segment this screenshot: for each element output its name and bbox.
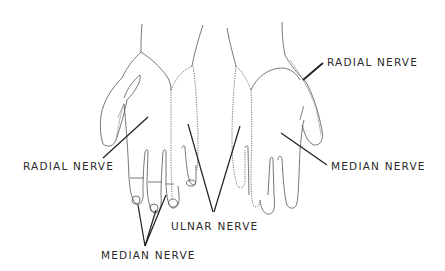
label-ulnar-nerve: ULNAR NERVE [171, 221, 258, 232]
pointer-ulnar-right [214, 126, 240, 212]
pointer-ulnar-left [188, 124, 213, 212]
pointer-median-right [281, 133, 327, 165]
label-radial-nerve-left: RADIAL NERVE [23, 161, 114, 172]
pointer-radial-right [303, 63, 323, 80]
label-radial-nerve-right: RADIAL NERVE [327, 57, 418, 68]
pointer-median-bottom-1 [138, 205, 145, 246]
right-hand [227, 22, 323, 214]
label-median-nerve-bottom: MEDIAN NERVE [101, 250, 196, 261]
pointer-median-bottom-3 [145, 195, 166, 246]
left-hand [100, 24, 203, 213]
label-median-nerve-right: MEDIAN NERVE [331, 161, 426, 172]
nerve-diagram: RADIAL NERVE RADIAL NERVE MEDIAN NERVE U… [0, 0, 445, 271]
